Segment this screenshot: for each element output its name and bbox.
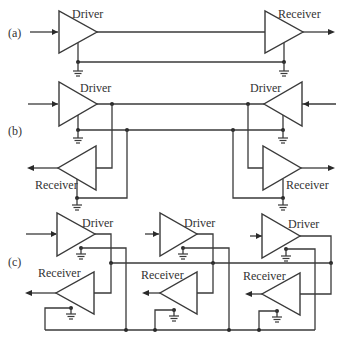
- node-1: Driver Receiver: [25, 213, 128, 332]
- section-c-label: (c): [8, 255, 21, 269]
- ground-icon: [278, 138, 288, 143]
- wire: [259, 311, 277, 330]
- arrow-right-icon: [153, 231, 159, 237]
- junction-dot: [153, 328, 157, 332]
- arrow-left-icon: [25, 290, 32, 296]
- wire: [94, 263, 111, 293]
- wire: [45, 308, 71, 330]
- wire: [248, 104, 263, 168]
- ground-icon: [281, 256, 291, 261]
- section-c: (c) Driver Receiver: [8, 213, 333, 332]
- section-b-label: (b): [8, 124, 22, 138]
- ground-icon: [66, 314, 76, 319]
- arrow-right-icon: [51, 231, 57, 237]
- ground-icon: [73, 71, 83, 76]
- arrow-right-icon: [256, 233, 262, 239]
- arrow-right-icon: [52, 101, 58, 107]
- junction-dot: [257, 328, 261, 332]
- driver-left-label: Driver: [80, 81, 111, 95]
- section-b: (b) Driver Driver Receiver: [8, 81, 336, 210]
- ground-icon: [169, 316, 179, 321]
- receiver-label: Receiver: [278, 7, 321, 21]
- arrow-left-icon: [27, 165, 34, 171]
- arrow-right-icon: [52, 29, 58, 35]
- ground-icon: [73, 138, 83, 143]
- wire: [155, 310, 174, 330]
- wire: [197, 263, 213, 293]
- driver-label: Driver: [288, 217, 319, 231]
- section-a-label: (a): [8, 26, 21, 40]
- arrow-left-icon: [142, 290, 149, 296]
- arrow-left-icon: [245, 291, 252, 297]
- arrow-right-icon: [328, 29, 335, 35]
- ground-icon: [76, 254, 86, 259]
- receiver-left-label: Receiver: [35, 178, 78, 192]
- wire: [96, 104, 112, 168]
- arrow-left-icon: [303, 101, 309, 107]
- section-a: (a) Driver Receiver: [8, 7, 335, 76]
- ground-icon: [178, 254, 188, 259]
- ground-icon: [279, 71, 289, 76]
- driver-label: Driver: [184, 216, 215, 230]
- receiver-right-label: Receiver: [286, 178, 329, 192]
- junction-dot: [124, 328, 128, 332]
- driver-label: Driver: [82, 216, 113, 230]
- node-2: Driver Receiver: [141, 213, 231, 332]
- receiver-label: Receiver: [141, 268, 184, 282]
- junction-dot: [227, 328, 231, 332]
- ground-icon: [272, 317, 282, 322]
- receiver-label: Receiver: [38, 266, 81, 280]
- ground-icon: [278, 205, 288, 210]
- receiver-label: Receiver: [243, 269, 286, 283]
- arrow-right-icon: [328, 165, 335, 171]
- driver-right-label: Driver: [250, 81, 281, 95]
- ground-icon: [72, 205, 82, 210]
- line-driver-receiver-diagram: (a) Driver Receiver (b) Driver Dr: [0, 0, 340, 346]
- driver-label: Driver: [72, 7, 103, 21]
- node-3: Driver Receiver: [243, 214, 333, 332]
